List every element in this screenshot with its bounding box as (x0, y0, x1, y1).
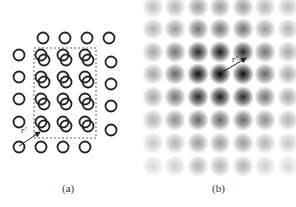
intensity-spot (142, 86, 164, 108)
intensity-spot (209, 132, 231, 154)
panel-a-lattice: r' (14, 33, 117, 153)
figure-canvas: r' r' (0, 0, 296, 207)
intensity-spot (187, 63, 209, 85)
intensity-spot (164, 132, 186, 154)
intensity-spot (142, 0, 164, 18)
caption-b: (b) (212, 182, 225, 194)
intensity-spot (187, 86, 209, 108)
vector-r-label: r' (21, 125, 28, 135)
lattice-circle (60, 33, 71, 44)
intensity-spot (142, 18, 164, 40)
intensity-spot (209, 18, 231, 40)
intensity-spot (142, 63, 164, 85)
intensity-spot (254, 41, 276, 63)
lattice-circle (106, 79, 117, 90)
intensity-spot (277, 18, 296, 40)
intensity-spot (277, 0, 296, 18)
intensity-spot (187, 155, 209, 177)
intensity-spot (232, 109, 254, 131)
intensity-spot (187, 109, 209, 131)
lattice-circle (80, 142, 91, 153)
intensity-spot (232, 86, 254, 108)
intensity-spot (187, 132, 209, 154)
intensity-spot (142, 41, 164, 63)
intensity-spot (142, 132, 164, 154)
intensity-spot (209, 63, 231, 85)
intensity-spot (232, 0, 254, 18)
intensity-spot (254, 155, 276, 177)
intensity-spot (277, 41, 296, 63)
lattice-circle (38, 33, 49, 44)
intensity-spot (277, 132, 296, 154)
intensity-spot (164, 0, 186, 18)
intensity-spot (209, 155, 231, 177)
intensity-spot (277, 155, 296, 177)
intensity-spot (254, 86, 276, 108)
intensity-spot (254, 63, 276, 85)
caption-a: (a) (62, 182, 74, 194)
intensity-spot (164, 18, 186, 40)
intensity-spot (209, 109, 231, 131)
lattice-circle (106, 125, 117, 136)
intensity-spot (277, 109, 296, 131)
intensity-spot (164, 109, 186, 131)
intensity-spot (277, 86, 296, 108)
lattice-circle (14, 72, 25, 83)
lattice-circle (36, 142, 47, 153)
intensity-spot (232, 63, 254, 85)
intensity-spot (254, 132, 276, 154)
intensity-spot (209, 86, 231, 108)
lattice-circle (14, 50, 25, 61)
intensity-spot (164, 86, 186, 108)
intensity-spot (164, 155, 186, 177)
intensity-spot (232, 132, 254, 154)
intensity-spot (142, 155, 164, 177)
lattice-circle (106, 57, 117, 68)
intensity-spot (254, 0, 276, 18)
intensity-spot (187, 0, 209, 18)
intensity-spot (187, 41, 209, 63)
lattice-circle (58, 142, 69, 153)
intensity-spot (254, 109, 276, 131)
intensity-spot (209, 41, 231, 63)
lattice-circle (82, 33, 93, 44)
intensity-spot (164, 41, 186, 63)
intensity-spot (232, 155, 254, 177)
lattice-circle (104, 33, 115, 44)
lattice-circle (14, 94, 25, 105)
intensity-spot (232, 18, 254, 40)
panel-b-spot-map: r' (142, 0, 296, 177)
intensity-spot (187, 18, 209, 40)
intensity-spot (142, 109, 164, 131)
lattice-circle (106, 101, 117, 112)
intensity-spot (254, 18, 276, 40)
intensity-spot (164, 63, 186, 85)
intensity-spot (209, 0, 231, 18)
intensity-spot (277, 63, 296, 85)
